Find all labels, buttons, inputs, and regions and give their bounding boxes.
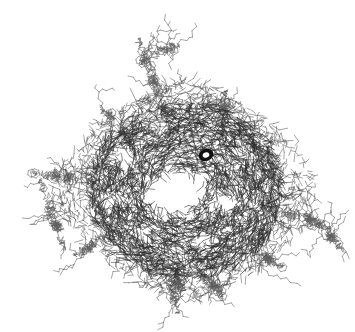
- molecular-figure: Dense toroidal core of overlapping bond …: [0, 0, 355, 332]
- molecule-wireframe-canvas: [0, 0, 355, 332]
